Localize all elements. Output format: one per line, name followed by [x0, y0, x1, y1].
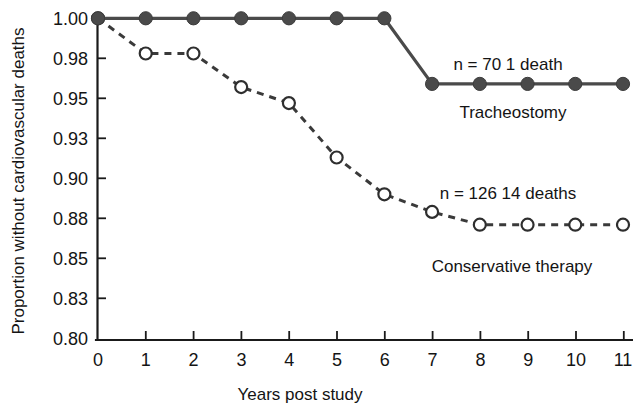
x-tick-label: 0	[93, 350, 103, 370]
x-tick-label: 2	[189, 350, 199, 370]
cardiovascular-survival-chart: 1.00 0.98 0.95 0.93 0.90 0.88 0.85 0.83 …	[0, 0, 633, 410]
y-tick-label: 0.95	[53, 89, 88, 109]
data-point-marker	[473, 77, 486, 90]
conservative-stats-label: n = 126 14 deaths	[440, 184, 577, 203]
data-point-marker	[91, 12, 104, 25]
chart-canvas: 1.00 0.98 0.95 0.93 0.90 0.88 0.85 0.83 …	[0, 0, 633, 410]
x-axis-tick-labels: 0 1 2 3 4 5 6 7 8 9 10 11	[93, 350, 632, 370]
data-point-marker	[617, 219, 629, 231]
data-point-marker	[378, 12, 391, 25]
data-point-marker	[283, 97, 295, 109]
data-point-marker	[521, 77, 534, 90]
data-point-marker	[569, 77, 582, 90]
tracheostomy-series-label: Tracheostomy	[459, 103, 567, 122]
tracheostomy-markers	[91, 12, 629, 91]
x-tick-label: 5	[332, 350, 342, 370]
x-tick-label: 4	[284, 350, 294, 370]
tracheostomy-line	[98, 18, 623, 84]
x-tick-label: 3	[236, 350, 246, 370]
data-point-marker	[378, 188, 390, 200]
x-axis	[96, 331, 633, 340]
chart-annotations: n = 70 1 death Tracheostomy n = 126 14 d…	[432, 55, 593, 276]
x-tick-label: 8	[475, 350, 485, 370]
x-tick-label: 10	[566, 350, 586, 370]
x-tick-label: 9	[523, 350, 533, 370]
y-tick-label: 0.98	[53, 49, 88, 69]
conservative-series-label: Conservative therapy	[432, 257, 593, 276]
x-axis-title: Years post study	[237, 385, 363, 404]
data-point-marker	[331, 152, 343, 164]
data-point-marker	[139, 12, 152, 25]
x-tick-label: 7	[428, 350, 438, 370]
data-point-marker	[282, 12, 295, 25]
x-tick-label: 11	[614, 350, 633, 370]
data-point-marker	[474, 219, 486, 231]
series-tracheostomy	[91, 12, 629, 91]
y-tick-label: 0.80	[53, 329, 88, 349]
data-point-marker	[569, 219, 581, 231]
tracheostomy-stats-label: n = 70 1 death	[453, 55, 562, 74]
data-point-marker	[425, 77, 438, 90]
data-point-marker	[616, 77, 629, 90]
y-tick-label: 0.90	[53, 169, 88, 189]
y-tick-label: 0.83	[53, 289, 88, 309]
y-tick-label: 1.00	[53, 9, 88, 29]
x-tick-label: 1	[141, 350, 151, 370]
data-point-marker	[522, 219, 534, 231]
data-point-marker	[235, 12, 248, 25]
y-tick-label: 0.88	[53, 209, 88, 229]
y-tick-label: 0.85	[53, 249, 88, 269]
data-point-marker	[426, 206, 438, 218]
data-point-marker	[140, 48, 152, 60]
y-tick-label: 0.93	[53, 129, 88, 149]
y-axis	[98, 18, 107, 340]
y-axis-tick-labels: 1.00 0.98 0.95 0.93 0.90 0.88 0.85 0.83 …	[53, 9, 88, 349]
data-point-marker	[187, 12, 200, 25]
data-point-marker	[187, 48, 199, 60]
data-point-marker	[235, 81, 247, 93]
data-point-marker	[330, 12, 343, 25]
y-axis-title: Proportion without cardiovascular deaths	[9, 27, 28, 334]
x-tick-label: 6	[380, 350, 390, 370]
